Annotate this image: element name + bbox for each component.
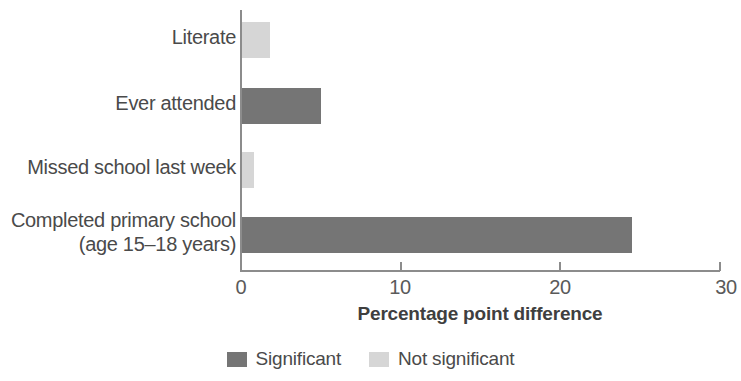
- legend-label-significant: Significant: [256, 348, 341, 370]
- legend-swatch-not-significant-icon: [369, 352, 389, 367]
- chart-legend: Significant Not significant: [0, 348, 741, 370]
- bar-missed-school-last-week: [241, 152, 254, 188]
- legend-item-not-significant: Not significant: [369, 348, 514, 370]
- y-axis-line: [240, 10, 242, 271]
- category-label-literate: Literate: [4, 26, 236, 50]
- category-label-completed-primary-school: Completed primary school (age 15–18 year…: [4, 209, 236, 256]
- bar-literate: [241, 22, 270, 58]
- x-axis-title: Percentage point difference: [240, 303, 720, 325]
- legend-swatch-significant-icon: [227, 352, 247, 367]
- plot-area: [240, 10, 719, 270]
- x-tick-30: [719, 262, 721, 271]
- x-tick-0: [240, 262, 242, 271]
- x-tick-20: [559, 262, 561, 271]
- x-axis-line: [240, 270, 720, 272]
- legend-item-significant: Significant: [227, 348, 341, 370]
- bar-chart-figure: Literate Ever attended Missed school las…: [0, 0, 741, 381]
- x-tick-label-10: 10: [389, 276, 411, 299]
- category-axis-labels: Literate Ever attended Missed school las…: [0, 0, 236, 271]
- legend-label-not-significant: Not significant: [398, 348, 514, 370]
- bar-completed-primary-school: [241, 217, 632, 253]
- x-tick-label-20: 20: [549, 276, 571, 299]
- category-label-ever-attended: Ever attended: [4, 92, 236, 116]
- x-tick-10: [400, 262, 402, 271]
- bar-ever-attended: [241, 88, 321, 124]
- x-tick-label-30: 30: [715, 276, 737, 299]
- category-label-missed-school-last-week: Missed school last week: [4, 156, 236, 180]
- x-tick-label-0: 0: [236, 276, 247, 299]
